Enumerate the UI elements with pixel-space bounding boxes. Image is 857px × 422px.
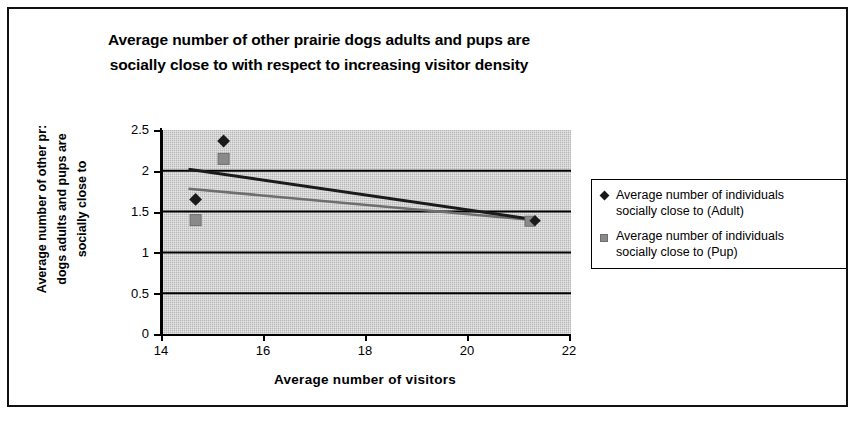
legend-label-pup-line-2: socially close to (Pup)	[616, 245, 738, 259]
diamond-marker-icon	[599, 189, 611, 203]
x-tick-label-18: 18	[345, 343, 385, 358]
y-tick-label-2: 2	[105, 164, 149, 177]
legend-label-adult: Average number of individuals socially c…	[616, 187, 784, 219]
x-tick-label-14: 14	[141, 343, 181, 358]
y-tick-0.5	[154, 293, 161, 295]
x-tick-18	[365, 334, 367, 341]
y-tick-2	[154, 171, 161, 173]
y-tick-1	[154, 252, 161, 254]
x-tick-16	[263, 334, 265, 341]
y-tick-label-1: 1	[105, 246, 149, 259]
x-tick-label-16: 16	[243, 343, 283, 358]
legend-label-pup: Average number of individuals socially c…	[616, 228, 784, 260]
y-tick-label-2.5: 2.5	[105, 123, 149, 136]
y-axis-title-line-2: dogs adults and pups are	[52, 94, 72, 324]
x-axis-title: Average number of visitors	[161, 372, 569, 387]
x-tick-22	[569, 334, 571, 341]
x-tick-20	[467, 334, 469, 341]
legend-label-pup-line-1: Average number of individuals	[616, 229, 784, 243]
y-axis-title-line-1: Average number of other pr:	[32, 94, 52, 324]
x-tick-label-22: 22	[549, 343, 589, 358]
y-axis-title-line-3: socially close to	[72, 94, 92, 324]
legend-item-adult[interactable]: Average number of individuals socially c…	[599, 187, 840, 219]
legend-item-pup[interactable]: Average number of individuals socially c…	[599, 228, 840, 260]
legend-label-adult-line-1: Average number of individuals	[616, 188, 784, 202]
y-tick-label-0: 0	[105, 327, 149, 340]
gridlines	[163, 171, 571, 293]
x-tick-label-20: 20	[447, 343, 487, 358]
y-tick-0	[154, 334, 161, 336]
x-tick-14	[161, 334, 163, 341]
y-tick-label-0.5: 0.5	[105, 287, 149, 300]
plot-area	[161, 130, 571, 334]
chart-frame: Average number of other prairie dogs adu…	[7, 7, 848, 407]
y-tick-1.5	[154, 212, 161, 214]
square-marker-icon	[599, 230, 611, 244]
legend-label-adult-line-2: socially close to (Adult)	[616, 204, 744, 218]
y-axis-line	[160, 128, 162, 336]
plot-canvas	[163, 130, 571, 334]
y-tick-labels: 2.5 2 1.5 1 0.5 0	[105, 9, 149, 422]
y-axis-title: Average number of other pr: dogs adults …	[32, 94, 92, 324]
y-tick-label-1.5: 1.5	[105, 205, 149, 218]
chart-legend: Average number of individuals socially c…	[591, 179, 847, 269]
y-tick-2.5	[154, 130, 161, 132]
